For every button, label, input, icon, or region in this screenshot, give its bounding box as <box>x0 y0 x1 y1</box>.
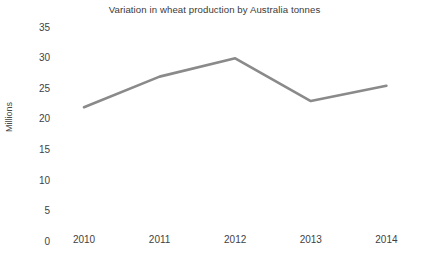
plot-area <box>0 0 429 258</box>
line-chart: Variation in wheat production by Austral… <box>0 0 429 258</box>
series-line <box>84 58 386 107</box>
data-series-wheat-production <box>84 58 386 107</box>
